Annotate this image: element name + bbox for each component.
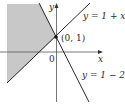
line-label-1-plus-x: y = 1 + x [82, 11, 125, 21]
intersection-label: (0, 1) [61, 33, 85, 43]
inequality-graph: y x 0 (0, 1) y = 1 + x y = 1 − 2x [0, 0, 125, 105]
graph-canvas: y x 0 (0, 1) y = 1 + x y = 1 − 2x [0, 0, 125, 105]
y-axis-arrow-icon [55, 3, 59, 8]
y-axis-label: y [48, 2, 55, 12]
line-label-1-minus-2x: y = 1 − 2x [81, 70, 125, 80]
origin-label: 0 [49, 54, 55, 64]
line-y-equals-1-minus-2x [39, 3, 89, 102]
x-axis-label: x [98, 54, 103, 64]
intersection-point [54, 35, 58, 39]
